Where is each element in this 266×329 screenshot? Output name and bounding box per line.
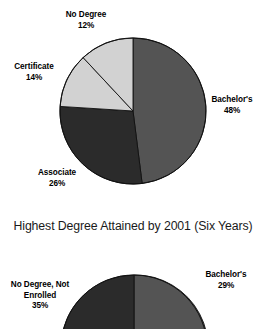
pie-label-bachelors-2: Bachelor's 29% [190,270,262,291]
pie-label-bachelors-value: 48% [198,106,266,117]
pie-label-associate-value: 26% [18,179,96,190]
pie-label-bachelors-name: Bachelor's [211,95,252,104]
pie-label-no-degree-not-enrolled-line2: Enrolled [0,291,83,302]
pie-chart-figure: No Degree 12% Certificate 14% Bachelor's… [0,0,266,329]
pie-label-associate: Associate 26% [18,168,96,189]
pie-label-no-degree-value: 12% [44,21,128,32]
pie-label-certificate-value: 14% [0,73,70,84]
pie-label-bachelors-2-value: 29% [190,281,262,292]
pie-label-no-degree-not-enrolled: No Degree, Not Enrolled 35% [0,280,83,312]
figure-title: Highest Degree Attained by 2001 (Six Yea… [0,219,266,234]
pie-label-no-degree-not-enrolled-value: 35% [0,301,83,312]
pie-slice-bachelors[interactable] [133,38,206,183]
pie-label-bachelors-2-name: Bachelor's [205,270,246,279]
pie-chart-top: No Degree 12% Certificate 14% Bachelor's… [0,0,266,212]
pie-label-certificate: Certificate 14% [0,62,70,83]
pie-label-bachelors: Bachelor's 48% [198,95,266,116]
pie-label-no-degree-not-enrolled-line1: No Degree, Not [11,280,69,289]
pie-label-no-degree-name: No Degree [66,10,107,19]
pie-chart-bottom: No Degree, Not Enrolled 35% Bachelor's 2… [0,262,266,329]
pie-label-no-degree: No Degree 12% [44,10,128,31]
pie-label-certificate-name: Certificate [14,62,54,71]
pie-label-associate-name: Associate [38,168,76,177]
